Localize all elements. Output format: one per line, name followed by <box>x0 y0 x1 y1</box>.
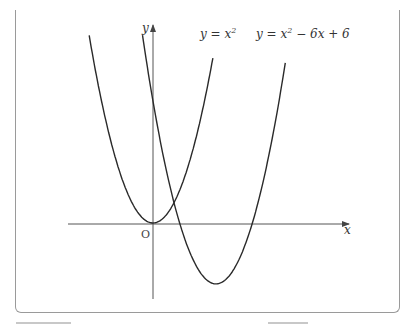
parabola-y-equals-x-squared-minus-6x-plus-6 <box>143 35 286 284</box>
curve-label-1: y = x2 <box>199 26 236 41</box>
y-axis-label: y <box>141 21 149 35</box>
origin-label: O <box>141 228 150 241</box>
graph: y x O y = x2 y = x2 − 6x + 6 <box>0 0 416 327</box>
curve-label-2: y = x2 − 6x + 6 <box>255 26 350 41</box>
x-axis-label: x <box>344 223 351 237</box>
parabola-y-equals-x-squared <box>89 35 213 223</box>
